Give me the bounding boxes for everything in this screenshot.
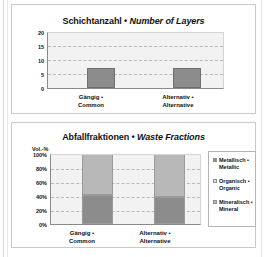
y-tick-layers-0: 0	[16, 86, 44, 92]
stack-common-metallic	[82, 195, 113, 224]
legend-label-mineral-de: Mineralisch •	[219, 199, 253, 205]
legend-item-organic: Organisch • Organic	[213, 178, 252, 192]
stack-common-mineral	[82, 154, 113, 195]
x-label-waste-common-de: Gängig •	[51, 229, 113, 237]
legend-label-metallic-en: Metallic	[219, 164, 239, 170]
y-tick-layers-10: 10	[16, 58, 44, 64]
x-label-waste-alternative-de: Alternativ •	[123, 229, 187, 237]
bar-layers-common	[87, 68, 115, 88]
chart-title-layers-de: Schichtanzahl	[62, 16, 121, 26]
y-tick-waste-40: 40%	[17, 194, 47, 200]
y-tick-layers-15: 15	[16, 44, 44, 50]
figure-page: Schichtanzahl • Number of Layers 20 15 1…	[0, 0, 264, 257]
plot-area-waste	[50, 154, 201, 225]
legend-label-mineral-en: Mineral	[219, 206, 238, 212]
y-tick-waste-80: 80%	[17, 166, 47, 172]
legend-label-metallic-de: Metallisch •	[219, 157, 249, 163]
chart-panel-waste: Abfallfraktionen • Waste Fractions Vol.-…	[11, 122, 256, 248]
x-label-waste-common: Gängig • Common	[51, 229, 113, 245]
x-label-layers-alternative-de: Alternativ •	[147, 93, 209, 101]
chart-title-waste-separator: •	[132, 132, 135, 142]
y-tick-layers-20: 20	[16, 30, 44, 36]
legend-label-organic-en: Organic	[219, 185, 240, 191]
chart-title-layers: Schichtanzahl • Number of Layers	[12, 16, 255, 26]
stack-alternative-metallic	[154, 197, 185, 224]
legend-item-mineral: Mineralisch • Mineral	[213, 199, 252, 213]
legend-swatch-metallic-icon	[213, 158, 217, 162]
y-tick-layers-5: 5	[16, 72, 44, 78]
chart-title-layers-en: Number of Layers	[130, 16, 205, 26]
x-label-waste-alternative-en: Alternative	[123, 237, 187, 245]
stack-alternative-mineral	[154, 154, 185, 197]
chart-title-waste-en: Waste Fractions	[137, 132, 205, 142]
legend-item-metallic: Metallisch • Metallic	[213, 157, 252, 171]
legend-label-organic: Organisch • Organic	[219, 178, 250, 192]
document-rule-left-inner	[7, 0, 8, 257]
chart-title-waste: Abfallfraktionen • Waste Fractions	[12, 132, 255, 142]
chart-panel-layers: Schichtanzahl • Number of Layers 20 15 1…	[11, 4, 256, 114]
gridline-15	[48, 46, 223, 48]
gridline-10	[48, 60, 223, 62]
legend-label-mineral: Mineralisch • Mineral	[219, 199, 253, 213]
legend-label-organic-de: Organisch •	[219, 178, 250, 184]
y-tick-waste-60: 60%	[17, 180, 47, 186]
legend-waste: Metallisch • Metallic Organisch • Organi…	[208, 151, 256, 227]
x-label-layers-alternative-en: Alternative	[147, 101, 209, 109]
document-rule-left	[3, 0, 4, 257]
legend-label-metallic: Metallisch • Metallic	[219, 157, 249, 171]
bar-layers-alternative	[173, 68, 201, 88]
y-tick-waste-100: 100%	[17, 152, 47, 158]
x-label-layers-common-en: Common	[61, 101, 121, 109]
chart-title-waste-de: Abfallfraktionen	[62, 132, 129, 142]
y-tick-waste-20: 20%	[17, 208, 47, 214]
x-label-layers-common-de: Gängig •	[61, 93, 121, 101]
legend-swatch-mineral-icon	[213, 200, 217, 204]
x-label-layers-alternative: Alternativ • Alternative	[147, 93, 209, 109]
plot-area-layers	[47, 32, 224, 89]
chart-title-layers-separator: •	[124, 16, 127, 26]
y-tick-waste-0: 0%	[17, 222, 47, 228]
document-rule-right	[261, 0, 262, 257]
x-label-waste-common-en: Common	[51, 237, 113, 245]
x-label-waste-alternative: Alternativ • Alternative	[123, 229, 187, 245]
legend-swatch-organic-icon	[213, 179, 217, 183]
x-label-layers-common: Gängig • Common	[61, 93, 121, 109]
